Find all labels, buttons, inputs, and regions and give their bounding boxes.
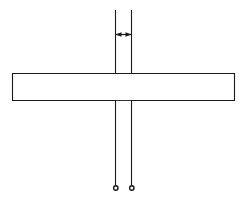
- technical-drawing-canvas: [0, 0, 247, 200]
- cross-center-fill: [116, 74, 131, 100]
- left-terminator-dot-icon: [114, 186, 118, 190]
- right-terminator-dot-icon: [130, 186, 134, 190]
- drawing-svg: [0, 0, 247, 200]
- arrow-head-left-icon: [116, 32, 122, 37]
- arrow-head-right-icon: [126, 32, 132, 37]
